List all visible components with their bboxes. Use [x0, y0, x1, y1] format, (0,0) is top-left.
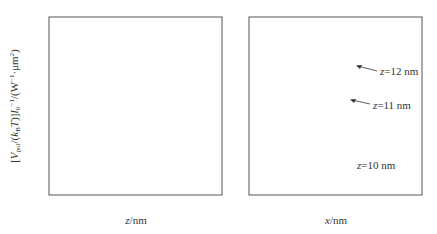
y-axis-label-a: [Vpol/(kBT)]I0−1/(W−1·μm2) — [8, 49, 22, 163]
svg-text:z=11 nm: z=11 nm — [372, 99, 411, 111]
svg-text:z=10 nm: z=10 nm — [356, 159, 396, 171]
figure: z/nm [Vpol/(kBT)]I0−1/(W−1·μm2) x/nm z=1… — [0, 0, 437, 234]
annotation-z12: z=12 nm — [356, 65, 419, 77]
panel-b: x/nm z=12 nm z=11 nm z=10 nm — [249, 17, 422, 226]
plot-frame-a — [49, 17, 222, 195]
x-axis-label-a: z/nm — [124, 214, 147, 226]
x-axis-label-b: x/nm — [324, 214, 347, 226]
annotation-z10: z=10 nm — [356, 159, 396, 171]
annotation-z11: z=11 nm — [350, 99, 411, 111]
panel-a: z/nm [Vpol/(kBT)]I0−1/(W−1·μm2) — [8, 17, 222, 226]
svg-text:z=12 nm: z=12 nm — [379, 65, 419, 77]
